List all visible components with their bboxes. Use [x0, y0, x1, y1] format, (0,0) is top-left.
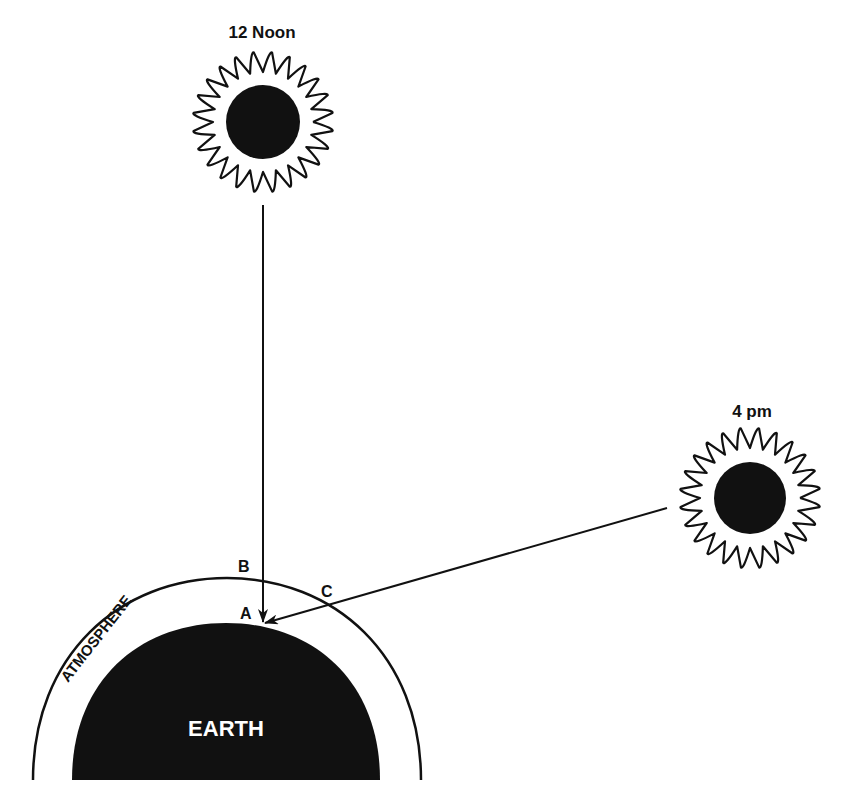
diagram-canvas: EARTH ATMOSPHERE B A C 12 Noon 4 pm — [0, 0, 848, 809]
earth-shape — [72, 623, 380, 780]
earth-label: EARTH — [188, 716, 264, 741]
afternoon-sun-label: 4 pm — [732, 402, 772, 421]
point-label-c: C — [321, 583, 333, 600]
point-label-a: A — [240, 605, 252, 622]
noon-sun-icon — [193, 52, 332, 191]
afternoon-sun-icon — [680, 428, 819, 567]
afternoon-ray-arrow — [265, 508, 667, 623]
point-label-b: B — [238, 558, 250, 575]
noon-sun-label: 12 Noon — [228, 23, 295, 42]
